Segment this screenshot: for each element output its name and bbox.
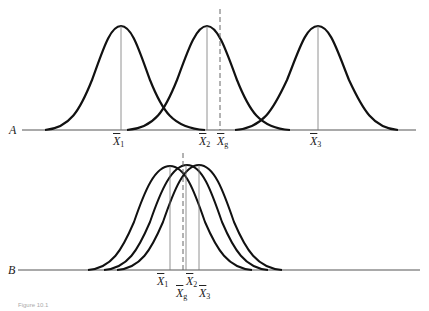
panel-a-curve-3 <box>235 26 398 130</box>
panel-a-curve-1 <box>45 26 205 130</box>
panel-b-curve-3 <box>117 165 282 270</box>
panel-a-letter: A <box>9 123 16 138</box>
panel-b-label-x2: X2 <box>186 275 197 289</box>
panel-b-label-x3: X3 <box>199 287 210 301</box>
panel-a-label-xg: Xg <box>217 135 228 149</box>
panel-a-label-x3: X3 <box>310 135 321 149</box>
normal-distributions-diagram <box>0 0 429 311</box>
panel-a-curve-2 <box>127 26 290 130</box>
panel-b-label-x1: X1 <box>157 275 168 289</box>
figure-caption: Figure 10.1 <box>18 302 48 308</box>
panel-a-label-x1: X1 <box>113 135 124 149</box>
panel-a-label-x2: X2 <box>199 135 210 149</box>
panel-b-label-xg: Xg <box>176 287 187 301</box>
panel-b-letter: B <box>8 263 15 278</box>
